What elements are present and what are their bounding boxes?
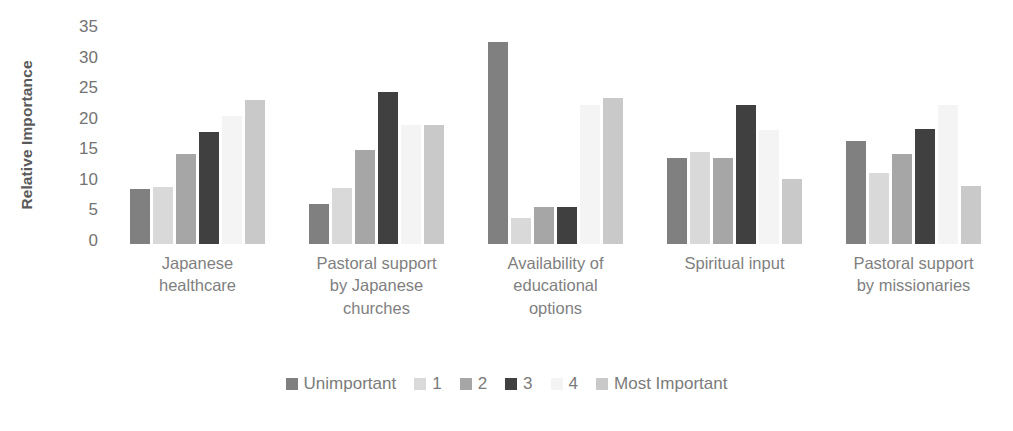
bar[interactable] — [782, 179, 802, 244]
y-axis-tick-25: 25 — [52, 79, 98, 96]
bar-chart: Relative Importance 35302520151050 Japan… — [0, 0, 1013, 431]
bar[interactable] — [153, 187, 173, 244]
bar[interactable] — [222, 116, 242, 244]
bar-group — [466, 30, 645, 244]
chart-legend: Unimportant1234Most Important — [0, 374, 1013, 394]
legend-swatch-icon — [551, 378, 563, 390]
bar[interactable] — [176, 154, 196, 244]
legend-item[interactable]: 4 — [551, 374, 578, 394]
legend-label: 3 — [523, 374, 532, 394]
bar-group — [645, 30, 824, 244]
bar[interactable] — [199, 132, 219, 244]
bar[interactable] — [915, 129, 935, 244]
bar[interactable] — [309, 204, 329, 244]
x-axis-category-labels: JapanesehealthcarePastoral supportby Jap… — [108, 252, 1003, 319]
legend-swatch-icon — [286, 378, 298, 390]
legend-swatch-icon — [460, 378, 472, 390]
bar[interactable] — [557, 207, 577, 244]
bar[interactable] — [378, 92, 398, 244]
y-axis-tick-15: 15 — [52, 140, 98, 157]
bar[interactable] — [846, 141, 866, 244]
bar[interactable] — [511, 218, 531, 244]
y-axis-title-label: Relative Importance — [18, 60, 36, 209]
bar[interactable] — [759, 130, 779, 244]
bar[interactable] — [603, 98, 623, 244]
legend-swatch-icon — [414, 378, 426, 390]
legend-item[interactable]: 1 — [414, 374, 441, 394]
bar[interactable] — [713, 158, 733, 244]
legend-label: Unimportant — [304, 374, 397, 394]
bar[interactable] — [245, 100, 265, 244]
legend-label: 2 — [478, 374, 487, 394]
x-axis-category-label: Availability ofeducationaloptions — [466, 252, 645, 319]
bar[interactable] — [355, 150, 375, 244]
x-axis-category-label: Spiritual input — [645, 252, 824, 319]
bar-group — [824, 30, 1003, 244]
y-axis-tick-5: 5 — [52, 201, 98, 218]
bar-group — [287, 30, 466, 244]
y-axis-title: Relative Importance — [14, 20, 40, 250]
bar[interactable] — [938, 105, 958, 244]
bar[interactable] — [892, 154, 912, 244]
legend-item[interactable]: Unimportant — [286, 374, 397, 394]
bar[interactable] — [130, 189, 150, 244]
legend-label: 1 — [432, 374, 441, 394]
y-axis-tick-0: 0 — [52, 232, 98, 249]
y-axis-tick-30: 30 — [52, 48, 98, 65]
bar[interactable] — [488, 42, 508, 244]
legend-item[interactable]: 2 — [460, 374, 487, 394]
x-axis-category-label: Japanesehealthcare — [108, 252, 287, 319]
bar[interactable] — [667, 158, 687, 244]
bar[interactable] — [401, 125, 421, 244]
bar[interactable] — [869, 173, 889, 244]
x-axis-category-label: Pastoral supportby missionaries — [824, 252, 1003, 319]
bar-group — [108, 30, 287, 244]
plot-area — [108, 30, 1003, 244]
bar[interactable] — [534, 207, 554, 244]
bar[interactable] — [332, 188, 352, 244]
y-axis-tick-10: 10 — [52, 170, 98, 187]
y-axis-tick-labels: 35302520151050 — [52, 26, 98, 250]
bar[interactable] — [424, 125, 444, 244]
legend-label: Most Important — [614, 374, 727, 394]
bar[interactable] — [961, 186, 981, 244]
legend-item[interactable]: 3 — [505, 374, 532, 394]
y-axis-tick-35: 35 — [52, 18, 98, 35]
bar[interactable] — [736, 105, 756, 244]
bar-groups — [108, 30, 1003, 244]
bar[interactable] — [580, 105, 600, 244]
legend-swatch-icon — [596, 378, 608, 390]
y-axis-tick-20: 20 — [52, 109, 98, 126]
legend-item[interactable]: Most Important — [596, 374, 727, 394]
x-axis-category-label: Pastoral supportby Japanesechurches — [287, 252, 466, 319]
legend-swatch-icon — [505, 378, 517, 390]
bar[interactable] — [690, 152, 710, 244]
legend-label: 4 — [569, 374, 578, 394]
